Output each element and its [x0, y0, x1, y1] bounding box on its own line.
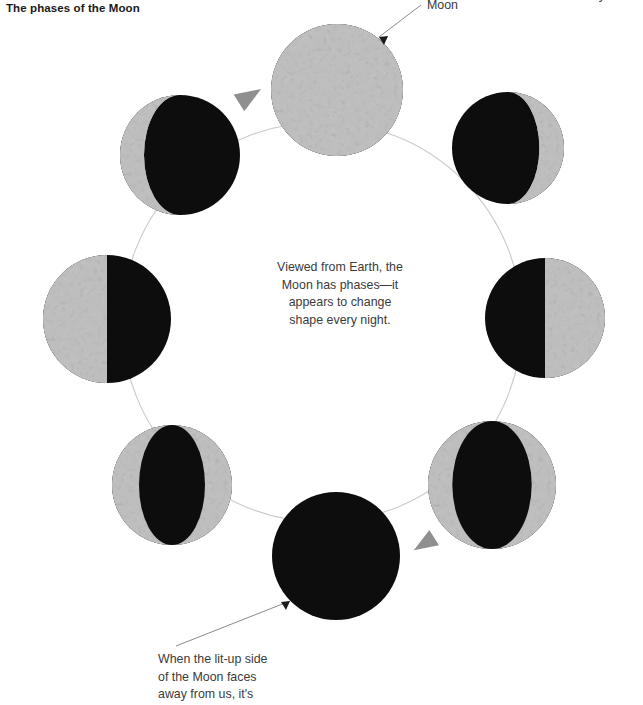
moon-phase-waxing-gibbous	[120, 95, 240, 215]
moon-phase-waning-crescent	[428, 421, 556, 549]
top-right-caption-text: each year.	[552, 0, 642, 5]
caption-leader	[176, 601, 290, 646]
orbit-arrow-bottom	[409, 530, 439, 558]
orbit-arrow-top	[234, 81, 267, 112]
moon-phases-diagram: The phases of the Moon	[0, 0, 643, 705]
center-description-text: Viewed from Earth, the Moon has phases—i…	[245, 259, 435, 329]
moon-label-leader	[379, 5, 421, 45]
moon-phase-first-quarter	[43, 255, 171, 383]
moon-label: Moon	[427, 0, 458, 15]
moon-phase-new-moon	[272, 492, 400, 620]
moon-phase-waxing-crescent	[112, 425, 232, 545]
moon-phase-full-moon	[271, 24, 403, 156]
moon-phase-third-quarter	[485, 258, 605, 378]
diagram-canvas	[0, 0, 643, 705]
bottom-caption-text: When the lit-up side of the Moon faces a…	[158, 651, 358, 704]
moon-phase-waning-gibbous	[452, 92, 564, 204]
